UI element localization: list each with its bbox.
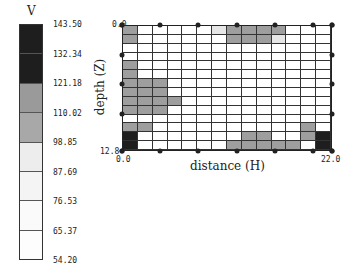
heatmap-cell	[153, 44, 168, 53]
colorbar-title: V	[27, 4, 36, 18]
colorbar-segment	[20, 231, 42, 259]
colorbar-segment	[20, 143, 42, 172]
heatmap-cell	[197, 88, 212, 97]
heatmap-cell	[168, 106, 183, 115]
electrode-marker	[330, 52, 335, 57]
heatmap-cell	[227, 106, 242, 115]
heatmap-cell	[286, 26, 301, 35]
heatmap-cell	[227, 53, 242, 62]
heatmap-cell	[123, 70, 138, 79]
heatmap-cell	[242, 106, 257, 115]
heatmap-cell	[182, 141, 197, 150]
colorbar	[19, 24, 43, 260]
electrode-marker	[158, 23, 163, 28]
heatmap-cell	[242, 123, 257, 132]
heatmap-cell	[182, 70, 197, 79]
heatmap-cell	[138, 132, 153, 141]
heatmap-cell	[301, 106, 316, 115]
heatmap-cell	[138, 115, 153, 124]
electrode-marker	[234, 149, 239, 154]
heatmap-cell	[197, 123, 212, 132]
heatmap-cell	[227, 123, 242, 132]
heatmap-cell	[153, 132, 168, 141]
heatmap-cell	[197, 44, 212, 53]
heatmap-cell	[182, 35, 197, 44]
heatmap-cell	[168, 115, 183, 124]
heatmap-cell	[168, 44, 183, 53]
heatmap-cell	[168, 26, 183, 35]
heatmap-cell	[286, 123, 301, 132]
colorbar-tick-label: 121.18	[53, 79, 82, 88]
heatmap-cell	[242, 26, 257, 35]
heatmap-cell	[257, 61, 272, 70]
electrode-marker	[330, 23, 335, 28]
heatmap-cell	[197, 97, 212, 106]
heatmap-cell	[272, 106, 287, 115]
heatmap-cell	[242, 141, 257, 150]
heatmap-cell	[257, 44, 272, 53]
electrode-marker	[330, 149, 335, 154]
heatmap-cell	[257, 79, 272, 88]
electrode-marker	[120, 52, 125, 57]
heatmap-cell	[212, 88, 227, 97]
heatmap-cell	[242, 53, 257, 62]
heatmap-cell	[197, 79, 212, 88]
heatmap-cell	[301, 26, 316, 35]
heatmap-cell	[138, 26, 153, 35]
heatmap-cell	[272, 88, 287, 97]
electrode-marker	[196, 23, 201, 28]
heatmap-cell	[227, 61, 242, 70]
heatmap-cell	[138, 79, 153, 88]
heatmap-cell	[301, 79, 316, 88]
heatmap-cell	[316, 115, 331, 124]
heatmap-cell	[257, 106, 272, 115]
heatmap-cell	[153, 70, 168, 79]
heatmap-cell	[257, 35, 272, 44]
heatmap-cell	[286, 141, 301, 150]
heatmap-cell	[212, 35, 227, 44]
electrode-marker	[330, 82, 335, 87]
heatmap-cell	[182, 26, 197, 35]
heatmap-cell	[212, 44, 227, 53]
heatmap-cell	[212, 97, 227, 106]
heatmap-cell	[182, 106, 197, 115]
heatmap-cell	[272, 35, 287, 44]
heatmap-cell	[138, 61, 153, 70]
heatmap-cell	[301, 53, 316, 62]
heatmap-cell	[182, 97, 197, 106]
heatmap-cell	[197, 61, 212, 70]
heatmap-cell	[286, 53, 301, 62]
electrode-marker	[272, 23, 277, 28]
heatmap-cell	[242, 35, 257, 44]
heatmap-grid	[122, 25, 332, 151]
heatmap-cell	[227, 132, 242, 141]
heatmap-cell	[182, 44, 197, 53]
heatmap-cell	[257, 53, 272, 62]
heatmap-cell	[123, 115, 138, 124]
heatmap-cell	[286, 97, 301, 106]
heatmap-cell	[123, 79, 138, 88]
heatmap-cell	[123, 26, 138, 35]
heatmap-cell	[138, 53, 153, 62]
heatmap-cell	[168, 70, 183, 79]
heatmap-cell	[301, 123, 316, 132]
heatmap-cell	[301, 97, 316, 106]
heatmap-cell	[316, 123, 331, 132]
heatmap-cell	[197, 106, 212, 115]
heatmap-cell	[123, 35, 138, 44]
colorbar-tick-label: 110.02	[53, 108, 82, 117]
heatmap-cell	[242, 115, 257, 124]
heatmap-cell	[272, 44, 287, 53]
heatmap-cell	[123, 106, 138, 115]
x-start-label: 0.0	[116, 155, 130, 164]
heatmap-cell	[286, 61, 301, 70]
heatmap-cell	[138, 123, 153, 132]
heatmap-cell	[272, 70, 287, 79]
colorbar-segment	[20, 54, 42, 83]
heatmap-cell	[138, 35, 153, 44]
heatmap-cell	[272, 61, 287, 70]
heatmap-cell	[272, 115, 287, 124]
heatmap-cell	[316, 26, 331, 35]
heatmap-cell	[316, 70, 331, 79]
colorbar-tick-label: 143.50	[53, 20, 82, 29]
